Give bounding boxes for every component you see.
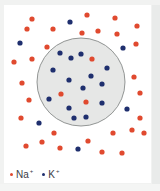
na-ion-outside	[44, 44, 49, 49]
na-ion-inside	[58, 91, 63, 96]
k-ion-inside	[99, 81, 104, 86]
na-ion-outside	[137, 90, 142, 95]
na-ion-outside	[57, 145, 62, 150]
na-ion-outside	[79, 30, 84, 35]
k-ion-inside	[66, 105, 71, 110]
k-ion-inside	[99, 100, 104, 105]
k-ion-inside	[46, 96, 51, 101]
na-ion-outside	[119, 150, 124, 155]
k-ion-inside	[88, 73, 93, 78]
na-ion-outside	[85, 138, 90, 143]
na-ion-outside	[133, 41, 138, 46]
cell-membrane	[37, 38, 125, 126]
na-ion-outside	[141, 130, 146, 135]
na-ion-outside	[26, 97, 31, 102]
k-ion-outside	[36, 120, 41, 125]
k-ion-inside	[71, 115, 76, 120]
legend-label-na: Na+	[16, 168, 33, 180]
na-ion-outside	[51, 130, 56, 135]
na-dot-icon	[10, 173, 13, 176]
k-ion-inside	[80, 85, 85, 90]
k-ion-inside	[68, 55, 73, 60]
na-ion-outside	[84, 12, 89, 17]
legend-label-k: K+	[48, 168, 59, 180]
k-ion-inside	[104, 65, 109, 70]
na-ion-outside	[23, 143, 28, 148]
na-ion-outside	[24, 26, 29, 31]
na-ion-outside	[114, 31, 119, 36]
k-ion-outside	[124, 106, 129, 111]
k-ion-inside	[50, 67, 55, 72]
k-ion-outside	[120, 45, 125, 50]
na-ion-outside	[29, 16, 34, 21]
k-ion-outside	[67, 19, 72, 24]
na-ion-outside	[131, 74, 136, 79]
na-ion-outside	[11, 59, 16, 64]
k-ion-outside	[17, 40, 22, 45]
na-ion-outside	[50, 26, 55, 31]
legend-item-k: K+	[42, 168, 59, 180]
legend-item-na: Na+	[10, 168, 33, 180]
k-ion-inside	[78, 51, 83, 56]
na-ion-outside	[99, 149, 104, 154]
na-ion-outside	[137, 115, 142, 120]
ion-diagram	[0, 0, 160, 191]
k-ion-inside	[83, 114, 88, 119]
na-ion-outside	[29, 56, 34, 61]
k-ion-inside	[66, 77, 71, 82]
k-ion-inside	[57, 50, 62, 55]
legend: Na+ K+	[10, 167, 69, 181]
na-ion-inside	[89, 56, 94, 61]
k-ion-outside	[75, 146, 80, 151]
na-ion-outside	[112, 15, 117, 20]
na-ion-outside	[19, 80, 24, 85]
na-ion-outside	[39, 139, 44, 144]
na-ion-outside	[18, 115, 23, 120]
na-ion-inside	[83, 99, 88, 104]
na-ion-outside	[129, 127, 134, 132]
na-ion-outside	[134, 23, 139, 28]
na-ion-outside	[110, 130, 115, 135]
k-dot-icon	[42, 173, 45, 176]
na-ion-outside	[95, 28, 100, 33]
